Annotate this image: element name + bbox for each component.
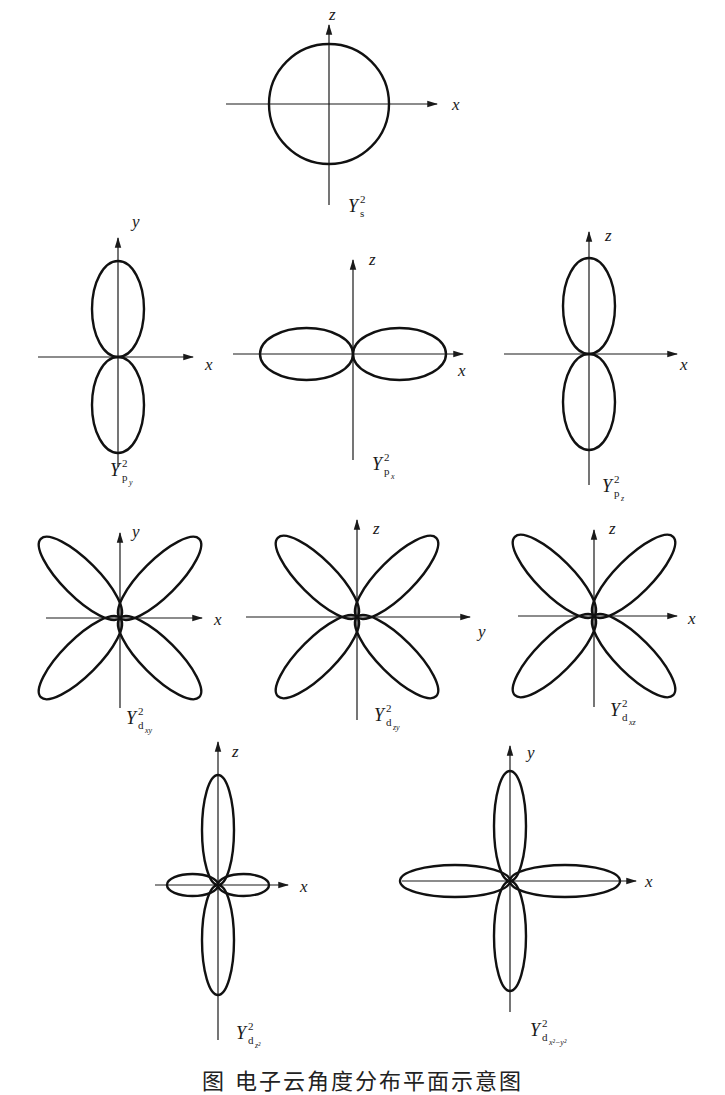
vertical-axis-label: z: [231, 742, 239, 761]
svg-text:x²−y²: x²−y²: [548, 1038, 567, 1047]
orbital-panel-pz: xzY2pz: [504, 226, 688, 503]
vertical-axis-label: z: [608, 519, 616, 538]
orbital-label-dxz: Y2dxz: [610, 697, 637, 727]
svg-text:zy: zy: [392, 723, 400, 732]
vertical-axis-label: z: [328, 5, 336, 24]
svg-text:d: d: [622, 711, 628, 723]
orbital-panel-py: xyY2py: [38, 212, 213, 487]
vertical-axis-label: y: [525, 743, 535, 762]
svg-text:p: p: [122, 471, 128, 483]
svg-text:d: d: [248, 1034, 254, 1046]
orbital-label-px: Y2px: [372, 451, 395, 481]
panels-layer: xzY2sxyY2pyxzY2pxxzY2pzxyY2dxyyzY2dzyxzY…: [28, 5, 696, 1050]
orbital-panel-dzy: yzY2dzy: [246, 519, 486, 732]
svg-text:Y: Y: [602, 476, 614, 496]
svg-text:x: x: [390, 472, 395, 481]
svg-text:2: 2: [614, 473, 620, 485]
orbital-label-s: Y2s: [348, 193, 366, 219]
horizontal-axis-label: x: [451, 95, 460, 114]
svg-text:xy: xy: [144, 726, 153, 735]
svg-text:Y: Y: [530, 1020, 542, 1040]
svg-text:Y: Y: [110, 460, 122, 480]
vertical-axis-label: y: [130, 212, 140, 231]
orbital-label-pz: Y2pz: [602, 473, 625, 503]
orbital-panel-dxz: xzY2dxz: [502, 519, 696, 727]
svg-text:Y: Y: [374, 705, 386, 725]
orbital-label-dz2: Y2dz²: [236, 1020, 261, 1050]
svg-text:2: 2: [138, 705, 144, 717]
orbital-label-py: Y2py: [110, 457, 133, 487]
svg-text:2: 2: [386, 702, 392, 714]
horizontal-axis-label: x: [457, 361, 466, 380]
orbital-panel-dx2y2: xyY2dx²−y²: [400, 743, 653, 1047]
svg-text:2: 2: [360, 193, 366, 205]
horizontal-axis-label: x: [213, 610, 222, 629]
svg-text:2: 2: [122, 457, 128, 469]
svg-text:y: y: [128, 478, 133, 487]
svg-text:2: 2: [384, 451, 390, 463]
horizontal-axis-label: x: [299, 877, 308, 896]
svg-text:z²: z²: [254, 1041, 261, 1050]
svg-text:2: 2: [248, 1020, 254, 1032]
horizontal-axis-label: x: [204, 355, 213, 374]
svg-text:p: p: [614, 487, 620, 499]
figure-caption: 图 电子云角度分布平面示意图: [0, 1063, 725, 1095]
svg-text:Y: Y: [236, 1023, 248, 1043]
svg-text:s: s: [360, 207, 364, 219]
orbital-panel-s: xzY2s: [226, 5, 460, 219]
vertical-axis-label: z: [604, 226, 612, 245]
horizontal-axis-label: y: [476, 622, 486, 641]
vertical-axis-label: z: [368, 250, 376, 269]
svg-text:Y: Y: [126, 708, 138, 728]
svg-text:z: z: [620, 494, 625, 503]
svg-text:xz: xz: [628, 718, 637, 727]
orbital-label-dzy: Y2dzy: [374, 702, 400, 732]
horizontal-axis-label: x: [644, 872, 653, 891]
vertical-axis-label: z: [372, 519, 380, 538]
vertical-axis-label: y: [130, 522, 140, 541]
svg-text:Y: Y: [348, 196, 360, 216]
svg-text:Y: Y: [610, 700, 622, 720]
orbital-panel-px: xzY2px: [233, 250, 466, 481]
svg-text:p: p: [384, 465, 390, 477]
orbital-label-dxy: Y2dxy: [126, 705, 153, 735]
svg-text:d: d: [542, 1031, 548, 1043]
svg-text:2: 2: [542, 1017, 548, 1029]
svg-text:d: d: [138, 719, 144, 731]
svg-text:2: 2: [622, 697, 628, 709]
svg-text:Y: Y: [372, 454, 384, 474]
horizontal-axis-label: x: [687, 609, 696, 628]
orbital-panel-dz2: xzY2dz²: [155, 742, 308, 1050]
horizontal-axis-label: x: [679, 355, 688, 374]
orbital-label-dx2y2: Y2dx²−y²: [530, 1017, 567, 1047]
orbital-panel-dxy: xyY2dxy: [28, 522, 222, 735]
svg-text:d: d: [386, 716, 392, 728]
